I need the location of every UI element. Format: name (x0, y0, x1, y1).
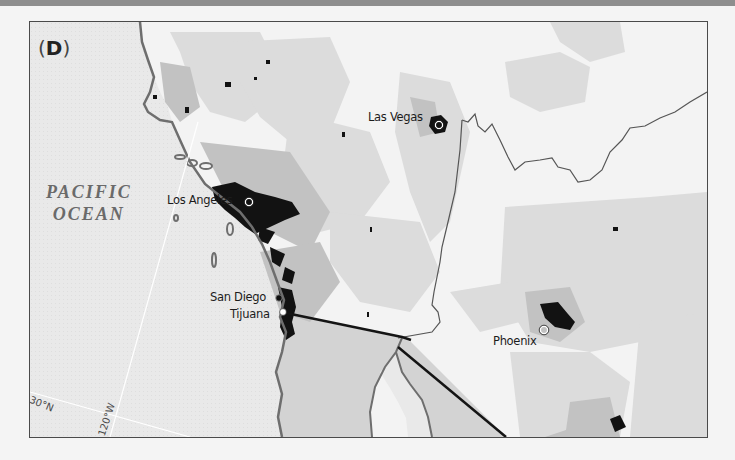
city-label-san-diego: San Diego (210, 290, 266, 304)
ocean-label-line1: PACIFIC (46, 181, 132, 203)
city-label-las-vegas: Las Vegas (368, 110, 423, 124)
marker-tijuana (280, 309, 287, 316)
city-label-los-angeles: Los Angeles (167, 193, 232, 207)
panel-letter: D (46, 36, 63, 60)
top-band (0, 0, 735, 6)
city-label-phoenix: Phoenix (493, 334, 537, 348)
paren-close: ) (62, 36, 70, 60)
panel-label: (D) (38, 36, 70, 60)
map-canvas (30, 22, 707, 437)
ocean-label-line2: OCEAN (46, 203, 132, 225)
ocean-label: PACIFIC OCEAN (46, 181, 132, 225)
city-label-tijuana: Tijuana (230, 307, 270, 321)
paren-open: ( (38, 36, 46, 60)
map-frame: (D) PACIFIC OCEAN Las Vegas Los Angeles … (29, 21, 708, 438)
marker-san-diego (276, 295, 282, 301)
